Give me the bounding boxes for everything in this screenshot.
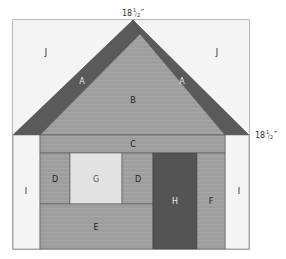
- label-j-right: J: [215, 48, 218, 57]
- label-g: G: [93, 175, 99, 184]
- label-b: B: [130, 96, 136, 105]
- dimension-right-den: 2: [270, 134, 273, 140]
- label-h: H: [172, 197, 178, 206]
- label-i-left: I: [25, 187, 27, 196]
- dimension-right: 18 1 / 2 ″: [255, 129, 277, 140]
- label-a-left: A: [79, 77, 85, 86]
- house-block-diagram: J J A A B C D G D E H F I I 18 1 / 2 ″ 1…: [0, 0, 286, 259]
- dimension-top-den: 2: [137, 12, 140, 18]
- dimension-right-whole: 18: [255, 131, 265, 140]
- label-i-right: I: [238, 187, 240, 196]
- label-f: F: [209, 197, 214, 206]
- dimension-top-unit: ″: [141, 9, 144, 18]
- label-a-right: A: [179, 77, 185, 86]
- label-j-left: J: [44, 48, 47, 57]
- label-e: E: [93, 223, 98, 232]
- dimension-right-unit: ″: [274, 131, 277, 140]
- dimension-top-whole: 18: [122, 9, 132, 18]
- label-c: C: [130, 140, 136, 149]
- label-d-right: D: [135, 175, 141, 184]
- label-d-left: D: [52, 175, 58, 184]
- dimension-top: 18 1 / 2 ″: [122, 7, 144, 18]
